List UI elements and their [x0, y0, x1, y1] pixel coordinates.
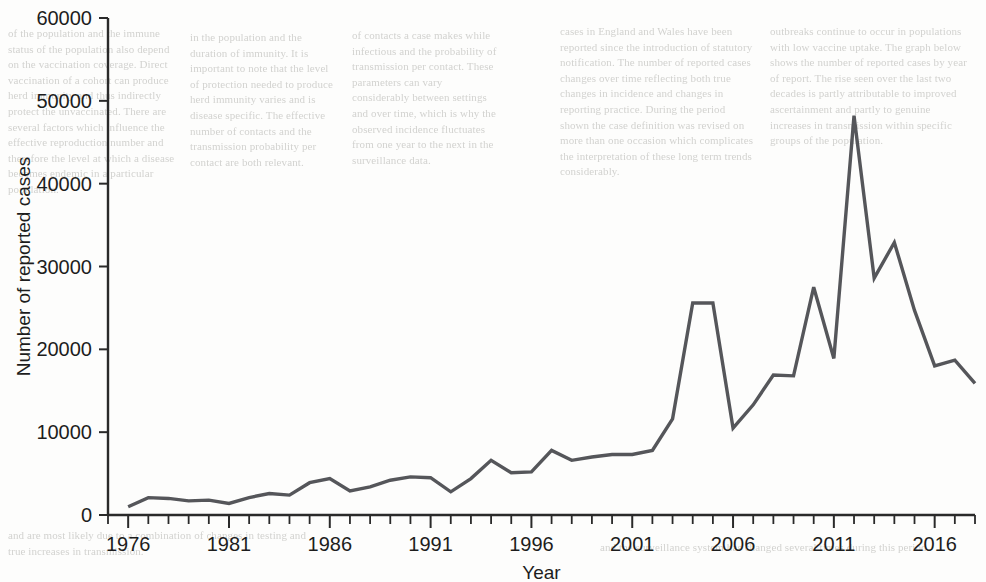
y-axis-title: Number of reported cases	[13, 157, 34, 377]
axis-titles: YearNumber of reported cases	[13, 157, 561, 582]
x-axis-tick-label: 2011	[812, 533, 855, 555]
x-axis-tick-label: 1976	[106, 533, 151, 555]
x-axis-tick-labels: 197619811986199119962001200620112016	[106, 533, 957, 555]
y-axis-tick-label: 50000	[36, 90, 92, 112]
line-chart: 0100002000030000400005000060000 19761981…	[0, 0, 986, 582]
y-axis	[99, 18, 108, 515]
figure-page: of the population and the immune status …	[0, 0, 986, 582]
x-axis-tick-label: 2001	[610, 533, 655, 555]
chart-svg: 0100002000030000400005000060000 19761981…	[0, 0, 986, 582]
x-axis-tick-label: 1991	[408, 533, 453, 555]
series-polyline	[128, 116, 975, 507]
y-axis-tick-label: 0	[81, 504, 92, 526]
y-axis-tick-labels: 0100002000030000400005000060000	[36, 7, 92, 526]
data-series-line	[128, 116, 975, 507]
x-axis	[108, 515, 975, 528]
x-axis-tick-label: 1981	[207, 533, 252, 555]
x-axis-tick-label: 2016	[912, 533, 957, 555]
y-axis-tick-label: 60000	[36, 7, 92, 29]
y-axis-tick-label: 10000	[36, 421, 92, 443]
x-axis-tick-label: 1996	[509, 533, 554, 555]
y-axis-tick-label: 40000	[36, 173, 92, 195]
x-axis-tick-label: 2006	[711, 533, 756, 555]
x-axis-title: Year	[522, 562, 561, 582]
y-axis-tick-label: 20000	[36, 338, 92, 360]
y-axis-tick-label: 30000	[36, 256, 92, 278]
x-axis-tick-label: 1986	[308, 533, 353, 555]
